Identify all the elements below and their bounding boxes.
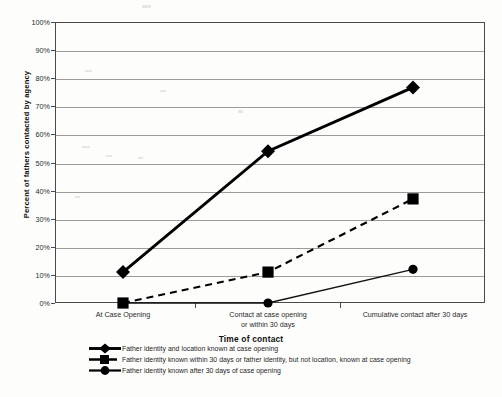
line-chart: 100% 90% 80% 70% 60% 50% 40% 30% 20% 10%… [0,0,502,397]
x-tick-mark [340,303,341,308]
gridline-70 [56,107,484,108]
legend-marker-diamond-icon [88,343,122,354]
x-tick-mark [195,303,196,308]
legend-label: Father identity known within 30 days or … [122,356,411,363]
legend-label: Father identity and location known at ca… [122,345,278,352]
gridline-50 [56,164,484,165]
scan-artifact [142,5,151,8]
gridline-20 [56,248,484,249]
x-tick-label-1: Contact at case opening or within 30 day… [208,310,328,329]
legend-marker-square-icon [88,354,122,365]
legend-item-0[interactable]: Father identity and location known at ca… [88,343,492,354]
gridline-60 [56,135,484,136]
gridline-40 [56,192,484,193]
legend-marker-circle-icon [88,365,122,376]
gridline-30 [56,220,484,221]
gridline-90 [56,51,484,52]
gridline-10 [56,276,484,277]
y-tick-label: 10% [8,270,50,279]
y-tick-label: 0% [8,299,50,308]
y-tick-mark [51,303,55,304]
legend: Father identity and location known at ca… [88,343,492,376]
x-tick-label-2: Cumulative contact after 30 days [345,310,485,320]
gridline-80 [56,79,484,80]
plot-area [55,22,485,303]
x-tick-label-0: At Case Opening [63,310,183,320]
legend-item-1[interactable]: Father identity known within 30 days or … [88,354,492,365]
legend-item-2[interactable]: Father identity known after 30 days of c… [88,365,492,376]
legend-label: Father identity known after 30 days of c… [122,367,281,374]
y-axis-title: Percent of fathers contacted by agency [22,25,31,265]
